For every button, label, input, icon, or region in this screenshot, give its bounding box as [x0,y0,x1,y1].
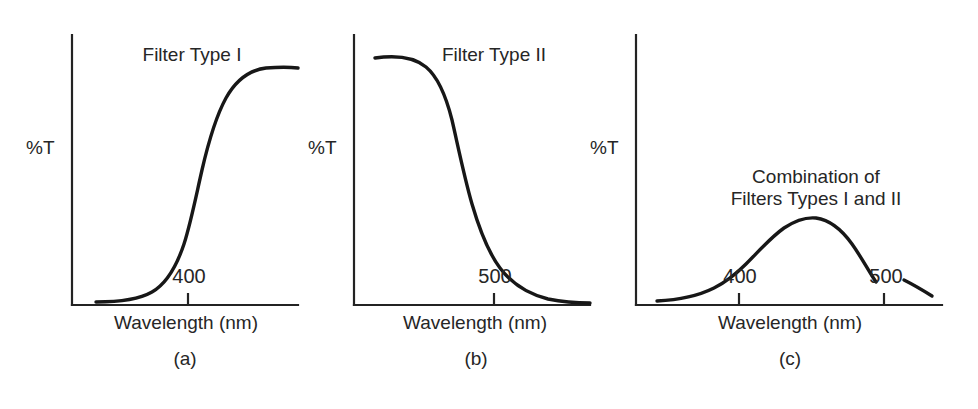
panel-c-title-line-1: Combination of [752,166,880,188]
panel-c-caption: (c) [779,348,801,370]
panel-c-title-line-2: Filters Types I and II [731,188,902,210]
panel-c-tick-label-400: 400 [723,265,756,289]
panel-c-x-axis-label: Wavelength (nm) [718,312,862,334]
panel-c-curve-main [657,218,876,301]
panel-c: Combination of Filters Types I and II %T… [0,0,978,409]
panel-c-curve-tail [904,280,932,296]
figure-root: Filter Type I %T 400 Wavelength (nm) (a)… [0,0,978,409]
panel-c-tick-label-500: 500 [869,265,902,289]
panel-c-y-axis-label: %T [590,137,619,159]
